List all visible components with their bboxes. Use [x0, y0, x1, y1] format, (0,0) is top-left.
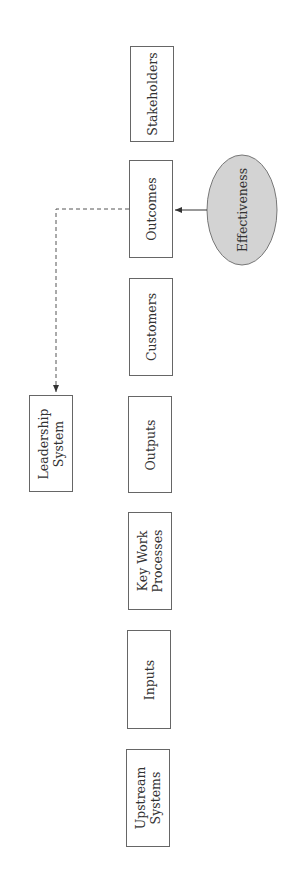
outcomes-box: Outcomes: [129, 160, 173, 258]
upstream-systems-text-line2: Systems: [148, 767, 163, 830]
inputs-label: Inputs: [142, 659, 157, 699]
stakeholders-box: Stakeholders: [130, 46, 174, 142]
leadership-system-label: Leadership System: [36, 408, 66, 479]
customers-label: Customers: [144, 293, 159, 361]
upstream-systems-box: Upstream Systems: [126, 749, 170, 847]
outcomes-text: Outcomes: [144, 177, 159, 241]
customers-text: Customers: [144, 293, 159, 361]
upstream-systems-label: Upstream Systems: [133, 767, 163, 830]
outputs-label: Outputs: [143, 419, 158, 470]
inputs-text: Inputs: [142, 659, 157, 699]
outcomes-to-leadership-dashed-arrow: [56, 209, 129, 392]
outcomes-label: Outcomes: [144, 177, 159, 241]
effectiveness-label: Effectiveness: [235, 168, 250, 252]
key-work-processes-text-line1: Key Work: [135, 530, 150, 593]
outputs-box: Outputs: [128, 396, 172, 493]
key-work-processes-box: Key Work Processes: [128, 512, 172, 610]
key-work-processes-label: Key Work Processes: [135, 530, 165, 593]
leadership-text-line1: Leadership: [36, 408, 51, 479]
outputs-text: Outputs: [143, 419, 158, 470]
key-work-processes-text-line2: Processes: [150, 530, 165, 593]
upstream-systems-text-line1: Upstream: [133, 767, 148, 830]
stakeholders-label: Stakeholders: [145, 52, 160, 135]
leadership-text-line2: System: [51, 408, 66, 479]
leadership-system-box: Leadership System: [29, 395, 73, 492]
customers-box: Customers: [129, 278, 173, 376]
inputs-box: Inputs: [127, 630, 171, 729]
stakeholders-text: Stakeholders: [145, 52, 160, 135]
